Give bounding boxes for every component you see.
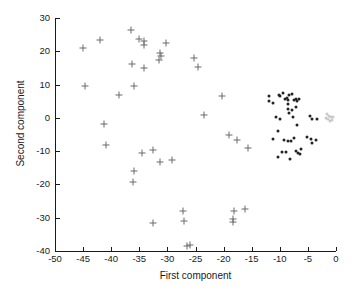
scatter-plot-figure: -50-45-40-35-30-25-20-15-10-50 -40-30-20…	[0, 0, 357, 290]
series-faint-cluster	[0, 0, 357, 290]
data-point	[331, 118, 334, 121]
data-point	[324, 116, 327, 119]
